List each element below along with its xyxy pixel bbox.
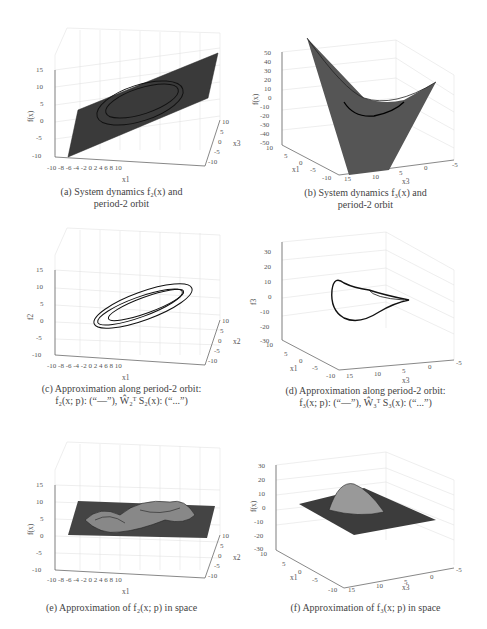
caption-f: (f) Approximation of f₃(x; p) in space xyxy=(244,602,487,614)
svg-text:10: 10 xyxy=(264,278,272,286)
caption-b: (b) System dynamics f₃(x) and period-2 o… xyxy=(244,187,487,211)
svg-text:-5: -5 xyxy=(214,148,220,156)
svg-text:5: 5 xyxy=(40,100,44,108)
svg-text:50: 50 xyxy=(264,49,272,57)
svg-text:0: 0 xyxy=(218,138,222,146)
svg-text:0: 0 xyxy=(40,117,44,125)
svg-text:-10: -10 xyxy=(32,351,42,359)
svg-text:0: 0 xyxy=(262,504,266,512)
x-axis-label: x1 xyxy=(292,165,300,174)
svg-text:0: 0 xyxy=(428,363,432,371)
caption-a: (a) System dynamics f₂(x) and period-2 o… xyxy=(0,186,243,210)
svg-text:20: 20 xyxy=(264,76,272,84)
svg-text:-10: -10 xyxy=(260,308,270,316)
svg-text:-30: -30 xyxy=(260,121,270,129)
svg-text:-10: -10 xyxy=(260,103,270,111)
panel-d: f3 3020100-10-20-30 1050-5-10 x1 151050-… xyxy=(244,210,487,419)
surface-plot-f: f(x) 3020100-10-20-30 1050-5-10 x1 15105… xyxy=(244,420,487,629)
x-axis-label: x1 xyxy=(122,587,130,596)
surface-plot-e: f(x) 151050-5-10 -10 -8 -6 -4 -2 0 2 4 6… xyxy=(0,420,243,629)
svg-text:10: 10 xyxy=(376,582,384,590)
svg-text:-10 -8 -6 -4 -2 0 2 4 6 8 10: -10 -8 -6 -4 -2 0 2 4 6 8 10 xyxy=(47,576,122,584)
x-axis-label: x1 xyxy=(122,373,130,382)
svg-text:-5: -5 xyxy=(456,359,462,367)
z-axis-label: f2 xyxy=(26,314,35,320)
z-axis-label: f(x) xyxy=(26,110,35,122)
svg-text:-10: -10 xyxy=(32,566,42,574)
svg-text:5: 5 xyxy=(220,327,224,335)
svg-text:-5: -5 xyxy=(310,166,316,174)
svg-text:20: 20 xyxy=(258,476,266,484)
svg-text:0: 0 xyxy=(40,317,44,325)
svg-text:30: 30 xyxy=(264,248,272,256)
z-axis-label: f(x) xyxy=(251,93,260,105)
svg-text:15: 15 xyxy=(36,66,44,74)
svg-text:40: 40 xyxy=(264,58,272,66)
svg-text:5: 5 xyxy=(402,367,406,375)
svg-text:0: 0 xyxy=(299,357,303,365)
svg-text:0: 0 xyxy=(268,94,272,102)
svg-text:0: 0 xyxy=(218,552,222,560)
svg-text:0: 0 xyxy=(298,568,302,576)
z-axis-label: f(x) xyxy=(249,500,258,512)
svg-text:10: 10 xyxy=(266,341,274,349)
svg-text:10: 10 xyxy=(222,317,230,325)
svg-text:10: 10 xyxy=(36,498,44,506)
svg-text:-5: -5 xyxy=(452,161,458,169)
svg-text:-5: -5 xyxy=(312,364,318,372)
surface-plot-b: f(x) 50403020100-10-20-30-40-50 1050-5-1… xyxy=(244,0,487,209)
svg-text:10: 10 xyxy=(374,370,382,378)
svg-text:5: 5 xyxy=(40,300,44,308)
svg-text:0: 0 xyxy=(40,532,44,540)
svg-text:15: 15 xyxy=(344,175,352,183)
panel-b: f(x) 50403020100-10-20-30-40-50 1050-5-1… xyxy=(244,0,487,209)
y-axis-label: x2 xyxy=(233,337,241,346)
svg-text:10: 10 xyxy=(222,532,230,540)
svg-text:-10: -10 xyxy=(254,518,264,526)
svg-text:-10: -10 xyxy=(326,372,336,380)
svg-text:10: 10 xyxy=(260,550,268,558)
svg-text:-10: -10 xyxy=(208,357,218,365)
svg-text:-20: -20 xyxy=(254,532,264,540)
svg-text:30: 30 xyxy=(258,462,266,470)
panel-c: f2 151050-5-10 -10 -8 -6 -4 -2 0 2 4 6 8… xyxy=(0,210,243,419)
svg-text:15: 15 xyxy=(348,586,356,594)
surface-plot-a: f(x) 151050-5-10 -10 -8 -6 -4 -2 0 2 4 6… xyxy=(0,0,243,209)
svg-text:-5: -5 xyxy=(456,566,462,574)
svg-text:-10: -10 xyxy=(322,174,332,182)
svg-text:-40: -40 xyxy=(260,130,270,138)
svg-text:-20: -20 xyxy=(260,112,270,120)
svg-text:10: 10 xyxy=(372,173,380,181)
x-axis-label: x1 xyxy=(122,175,130,184)
x-axis-label: x1 xyxy=(290,364,298,373)
svg-text:-10: -10 xyxy=(328,586,338,594)
svg-text:10: 10 xyxy=(36,83,44,91)
svg-text:5: 5 xyxy=(220,128,224,136)
svg-text:20: 20 xyxy=(264,263,272,271)
y-axis-label: x3 xyxy=(402,376,410,385)
svg-text:5: 5 xyxy=(282,560,286,568)
svg-text:10: 10 xyxy=(266,144,274,152)
svg-text:-5: -5 xyxy=(214,347,220,355)
svg-text:-10: -10 xyxy=(208,158,218,166)
svg-text:0: 0 xyxy=(218,337,222,345)
svg-text:-10: -10 xyxy=(32,152,42,160)
svg-text:5: 5 xyxy=(399,169,403,177)
panel-a: f(x) 151050-5-10 -10 -8 -6 -4 -2 0 2 4 6… xyxy=(0,0,243,209)
svg-text:5: 5 xyxy=(284,350,288,358)
svg-text:10: 10 xyxy=(258,490,266,498)
svg-text:5: 5 xyxy=(284,152,288,160)
caption-e: (e) Approximation of f₂(x; p) in space xyxy=(0,602,243,614)
y-axis-label: x2 xyxy=(233,553,241,562)
svg-text:-10 -8 -6 -4 -2 0 2 4 6 8 10: -10 -8 -6 -4 -2 0 2 4 6 8 10 xyxy=(47,164,122,172)
x-axis-label: x1 xyxy=(290,573,298,582)
svg-text:10: 10 xyxy=(264,85,272,93)
caption-d: (d) Approximation along period-2 orbit: … xyxy=(244,385,487,409)
svg-text:15: 15 xyxy=(36,266,44,274)
svg-text:10: 10 xyxy=(222,118,230,126)
svg-text:-10 -8 -6 -4 -2 0 2 4 6 8 10: -10 -8 -6 -4 -2 0 2 4 6 8 10 xyxy=(47,362,122,370)
panel-e: f(x) 151050-5-10 -10 -8 -6 -4 -2 0 2 4 6… xyxy=(0,420,243,629)
svg-text:-5: -5 xyxy=(312,576,318,584)
svg-text:-5: -5 xyxy=(36,134,42,142)
y-axis-label: x3 xyxy=(233,139,241,148)
